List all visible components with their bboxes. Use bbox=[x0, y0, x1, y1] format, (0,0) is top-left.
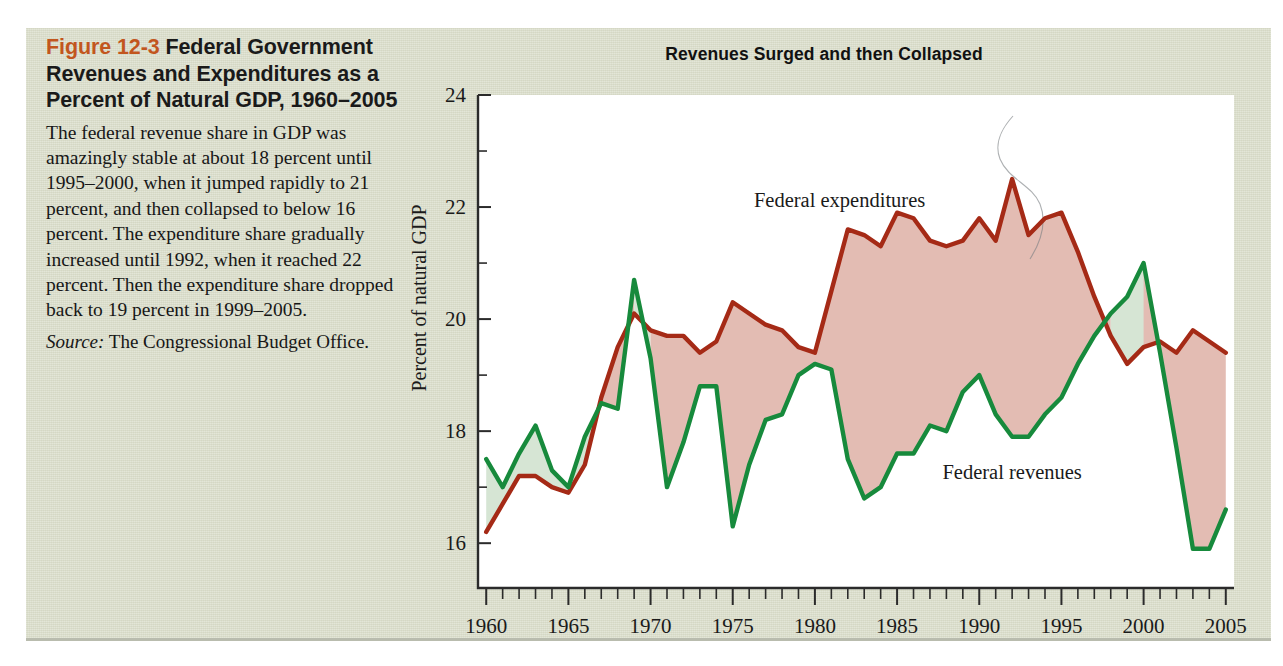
y-tick-label: 24 bbox=[445, 83, 467, 107]
x-tick-label: 2005 bbox=[1205, 614, 1247, 638]
figure-source: Source: The Congressional Budget Office. bbox=[46, 329, 408, 354]
y-tick-label: 18 bbox=[445, 419, 466, 443]
chart-container: Revenues Surged and then Collapsed Perce… bbox=[400, 28, 1270, 638]
figure-body-text: The federal revenue share in GDP was ama… bbox=[46, 120, 408, 323]
x-tick-label: 1995 bbox=[1040, 614, 1082, 638]
panel-bottom-rule bbox=[26, 638, 1271, 641]
figure-number: Figure 12-3 bbox=[46, 35, 160, 59]
x-tick-label: 1980 bbox=[794, 614, 836, 638]
x-tick-label: 1965 bbox=[547, 614, 589, 638]
x-tick-label: 1975 bbox=[712, 614, 754, 638]
x-tick-label: 1985 bbox=[876, 614, 918, 638]
y-tick-label: 20 bbox=[445, 307, 466, 331]
source-text: The Congressional Budget Office. bbox=[104, 331, 369, 352]
label-federal-expenditures: Federal expenditures bbox=[754, 189, 925, 212]
label-federal-revenues: Federal revenues bbox=[942, 461, 1081, 483]
figure-heading: Figure 12-3 Federal Government Revenues … bbox=[46, 34, 408, 114]
source-label: Source: bbox=[46, 331, 104, 352]
figure-page: Figure 12-3 Federal Government Revenues … bbox=[0, 0, 1283, 666]
x-tick-label: 2000 bbox=[1123, 614, 1165, 638]
y-tick-label: 16 bbox=[445, 531, 466, 555]
y-tick-label: 22 bbox=[445, 195, 466, 219]
plot-svg: 2422201816 19601965197019751980198519901… bbox=[400, 28, 1270, 638]
x-axis-ticks: 1960196519701975198019851990199520002005 bbox=[465, 588, 1247, 638]
x-tick-label: 1960 bbox=[465, 614, 507, 638]
figure-caption: Figure 12-3 Federal Government Revenues … bbox=[46, 34, 408, 354]
x-tick-label: 1970 bbox=[630, 614, 672, 638]
x-tick-label: 1990 bbox=[958, 614, 1000, 638]
